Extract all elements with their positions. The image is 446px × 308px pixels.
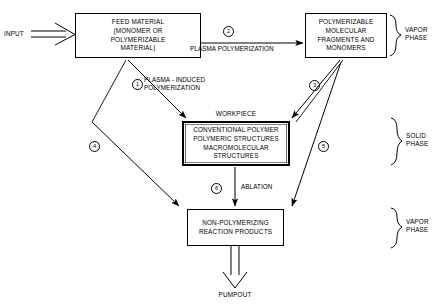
step-number-3: 3: [309, 80, 320, 91]
step-number-2: 2: [223, 26, 234, 37]
workpiece-caption: WORKPIECE: [182, 110, 290, 118]
fragments-line-1: POLYMERIZABLE: [319, 18, 374, 27]
edge-1-label: PLASMA - INDUCED POLYMERIZATION: [144, 76, 205, 92]
step-number-1: 1: [132, 79, 143, 90]
input-arrow: [31, 23, 75, 45]
fragments-line-3: FRAGMENTS AND: [318, 36, 375, 45]
pumpout-label: PUMPOUT: [195, 291, 275, 299]
non-polymerizing-line-2: REACTION PRODUCTS: [199, 228, 272, 237]
fragments-line-2: MOLECULAR: [325, 27, 366, 36]
process-flow-diagram: INPUT FEED MATERIAL (MONOMER OR POLYMERI…: [0, 0, 446, 308]
feed-material-line-1: FEED MATERIAL: [112, 18, 164, 27]
phase-label-vapor-top: VAPOR PHASE: [405, 26, 428, 43]
step-number-5: 5: [318, 141, 329, 152]
phase-label-vapor-bottom: VAPOR PHASE: [406, 218, 429, 235]
non-polymerizing-line-1: NON-POLYMERIZING: [202, 219, 269, 228]
step-number-6: 6: [211, 183, 222, 194]
feed-material-line-3: POLYMERIZABLE: [111, 36, 166, 45]
brace-solid: [391, 118, 402, 165]
workpiece-line-1: CONVENTIONAL POLYMER: [193, 126, 279, 135]
node-polymerizable-fragments: POLYMERIZABLE MOLECULAR FRAGMENTS AND MO…: [305, 13, 387, 58]
node-non-polymerizing-products: NON-POLYMERIZING REACTION PRODUCTS: [187, 209, 284, 246]
brace-vapor-top: [390, 15, 401, 56]
node-workpiece: CONVENTIONAL POLYMER POLYMERIC STRUCTURE…: [182, 121, 290, 166]
feed-material-line-2: (MONOMER OR: [113, 27, 162, 36]
edge-3-line: [292, 60, 343, 122]
brace-vapor-bottom: [391, 208, 402, 248]
pumpout-arrow: [223, 246, 247, 288]
edge-4-line: [92, 122, 179, 206]
workpiece-line-3: MACROMOLECULAR: [203, 144, 269, 153]
edge-6-label: ABLATION: [241, 183, 272, 191]
edge-2-label: PLASMA POLYMERIZATION: [190, 45, 274, 53]
workpiece-line-2: POLYMERIC STRUCTURES: [193, 135, 279, 144]
fragments-line-4: MONOMERS: [326, 44, 366, 53]
phase-label-solid: SOLID PHASE: [406, 132, 428, 149]
feed-material-line-4: MATERIAL): [121, 44, 156, 53]
step-number-4: 4: [89, 141, 100, 152]
node-feed-material: FEED MATERIAL (MONOMER OR POLYMERIZABLE …: [75, 13, 201, 58]
workpiece-line-4: STRUCTURES: [213, 152, 258, 161]
input-label: INPUT: [4, 30, 24, 38]
